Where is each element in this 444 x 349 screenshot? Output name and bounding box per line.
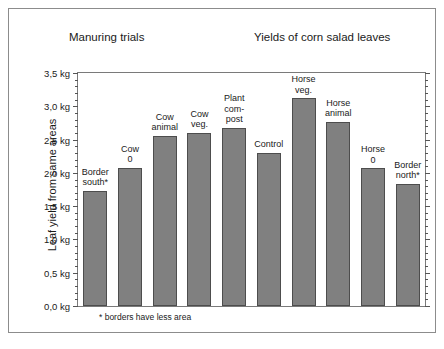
bar-category-label: Control: [246, 139, 292, 150]
y-axis-minor-tick: [425, 186, 428, 187]
bar-series: Border south*Cow 0Cow animalCow veg.Plan…: [78, 73, 425, 306]
y-axis-tick-label: 2,0 kg: [44, 167, 70, 178]
y-axis-major-tick: [425, 306, 430, 307]
bar-group: Cow 0: [113, 73, 148, 306]
y-axis-major-tick: [425, 73, 430, 74]
bar: [153, 136, 177, 306]
bar-category-label: Horse veg.: [281, 74, 327, 95]
bar: [187, 133, 211, 306]
y-axis-tick-label: 0,0 kg: [44, 301, 70, 312]
y-axis-tick-label: 1,5 kg: [44, 201, 70, 212]
y-axis-minor-tick: [425, 259, 428, 260]
y-axis-minor-tick: [425, 279, 428, 280]
bar-group: Border south*: [78, 73, 113, 306]
y-axis-major-tick: [425, 140, 430, 141]
bar: [396, 184, 420, 306]
y-axis-minor-tick: [425, 146, 428, 147]
y-axis-minor-tick: [425, 286, 428, 287]
y-axis-minor-tick: [425, 86, 428, 87]
y-axis-major-tick: [425, 106, 430, 107]
y-axis-minor-tick: [425, 226, 428, 227]
chart-title-left: Manuring trials: [69, 31, 144, 43]
chart-outer-frame: Manuring trials Yields of corn salad lea…: [8, 8, 436, 333]
y-axis-tick-label: 0,5 kg: [44, 267, 70, 278]
y-axis-minor-tick: [425, 299, 428, 300]
y-axis-minor-tick: [425, 193, 428, 194]
chart-title-right: Yields of corn salad leaves: [254, 31, 390, 43]
chart-page: Manuring trials Yields of corn salad lea…: [0, 0, 444, 349]
bar-group: Border north*: [390, 73, 425, 306]
bar: [257, 153, 281, 306]
y-axis-minor-tick: [425, 126, 428, 127]
y-axis-major-tick: [73, 306, 78, 307]
plot-area: 0,0 kg0,5 kg1,0 kg1,5 kg2,0 kg2,5 kg3,0 …: [77, 72, 426, 307]
bar-category-label: Cow 0: [107, 144, 153, 165]
bar: [326, 122, 350, 306]
y-axis-minor-tick: [425, 133, 428, 134]
y-axis-minor-tick: [425, 93, 428, 94]
y-axis-minor-tick: [425, 153, 428, 154]
chart-footnote: * borders have less area: [99, 312, 191, 322]
bar: [292, 98, 316, 306]
y-axis-minor-tick: [425, 120, 428, 121]
y-axis-tick-label: 3,0 kg: [44, 101, 70, 112]
y-axis-tick-label: 3,5 kg: [44, 68, 70, 79]
bar: [361, 168, 385, 306]
y-axis-minor-tick: [425, 219, 428, 220]
y-axis-major-tick: [425, 273, 430, 274]
y-axis-major-tick: [425, 206, 430, 207]
y-axis-minor-tick: [425, 253, 428, 254]
y-axis-minor-tick: [425, 100, 428, 101]
y-axis-tick-label: 2,5 kg: [44, 134, 70, 145]
y-axis-tick-label: 1,0 kg: [44, 234, 70, 245]
y-axis-minor-tick: [425, 233, 428, 234]
y-axis-minor-tick: [425, 80, 428, 81]
bar-group: Horse animal: [321, 73, 356, 306]
bar-category-label: Plant com- post: [211, 93, 257, 125]
y-axis-minor-tick: [425, 213, 428, 214]
y-axis-minor-tick: [425, 293, 428, 294]
y-axis-minor-tick: [425, 113, 428, 114]
bar-group: Control: [252, 73, 287, 306]
bar-group: Plant com- post: [217, 73, 252, 306]
bar: [83, 191, 107, 306]
bar: [222, 128, 246, 306]
y-axis-major-tick: [425, 239, 430, 240]
bar-category-label: Border north*: [385, 160, 431, 181]
y-axis-minor-tick: [425, 266, 428, 267]
bar: [118, 168, 142, 306]
bar-category-label: Horse animal: [315, 98, 361, 119]
y-axis-minor-tick: [425, 246, 428, 247]
y-axis-minor-tick: [425, 199, 428, 200]
bar-category-label: Border south*: [72, 167, 118, 188]
bar-group: Horse 0: [356, 73, 391, 306]
